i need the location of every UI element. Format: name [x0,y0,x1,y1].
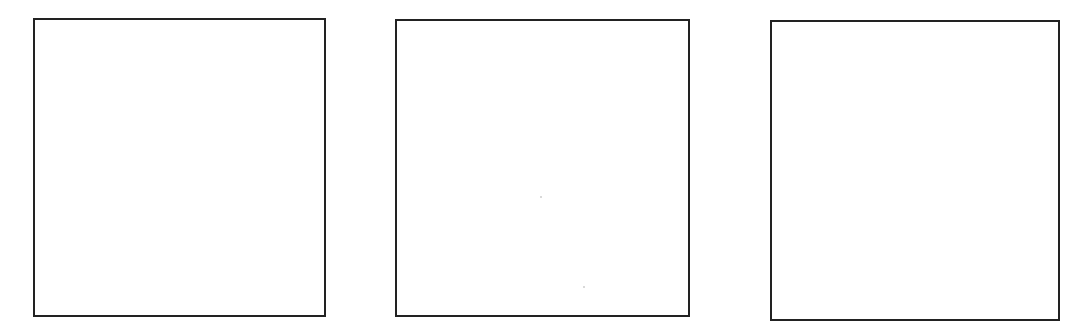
empty-panel-3 [770,20,1060,321]
empty-panel-1 [33,18,326,317]
empty-panel-2 [395,19,690,317]
speck-mark [540,196,542,198]
speck-mark [583,286,585,288]
